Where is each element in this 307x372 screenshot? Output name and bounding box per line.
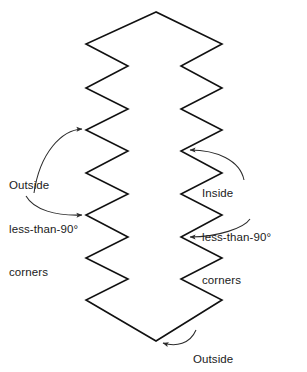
annotation-label-outside-greater-than-90: Outside greater-than-90° corner (193, 323, 278, 372)
annotation-label-inside-less-than-90: Inside less-than-90° corners (202, 157, 271, 317)
annotation-label-outside-less-than-90: Outside less-than-90° corners (9, 149, 78, 309)
annotation-line: less-than-90° (202, 230, 271, 245)
annotation-line: corners (202, 273, 271, 288)
annotation-line: Inside (202, 186, 271, 201)
annotation-line: Outside (193, 352, 278, 367)
annotation-line: corners (9, 265, 78, 280)
annotation-line: less-than-90° (9, 222, 78, 237)
diagram-canvas: Outside less-than-90° corners Inside les… (0, 0, 307, 372)
annotation-line: Outside (9, 178, 78, 193)
